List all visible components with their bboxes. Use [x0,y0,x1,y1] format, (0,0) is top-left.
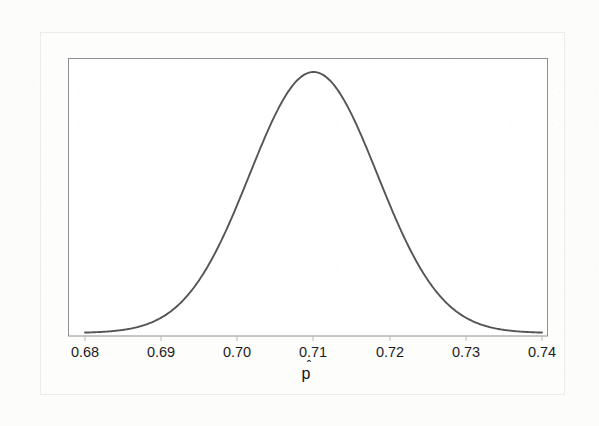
x-tick-label-0: 0.68 [71,344,99,360]
x-tick-label-5: 0.73 [452,344,480,360]
plot-frame [69,59,548,337]
x-tick-label-4: 0.72 [376,344,404,360]
x-tick-label-2: 0.70 [223,344,251,360]
x-axis-ticks [85,336,542,341]
x-tick-label-6: 0.74 [528,344,556,360]
figure-root: 0.68 0.69 0.70 0.71 0.72 0.73 0.74 p ˆ [0,0,599,426]
normal-distribution-chart: 0.68 0.69 0.70 0.71 0.72 0.73 0.74 p ˆ [0,0,599,426]
x-tick-label-3: 0.71 [299,344,327,360]
x-axis-title-hat-accent: ˆ [307,358,312,373]
x-tick-label-1: 0.69 [147,344,175,360]
x-axis-title: p ˆ [302,358,312,382]
